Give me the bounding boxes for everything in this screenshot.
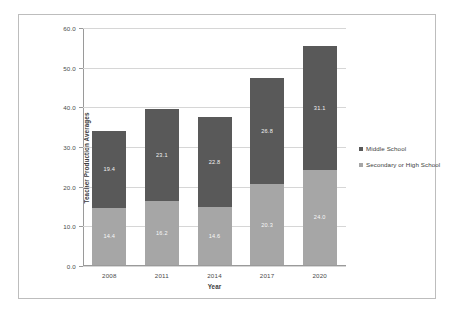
y-axis-tick-label: 0.0	[67, 263, 76, 270]
y-axis-tick	[79, 107, 83, 108]
x-axis-tick-label: 2014	[207, 272, 222, 279]
bar-value-label: 16.2	[156, 230, 168, 236]
bar-group[interactable]: 23.116.22011	[145, 109, 179, 265]
y-axis-tick-label: 20.0	[63, 183, 76, 190]
bar-group[interactable]: 26.820.32017	[250, 78, 284, 265]
bar-value-label: 26.8	[261, 128, 273, 134]
bar-segment-middle-school[interactable]: 31.1	[303, 46, 337, 169]
y-axis-tick	[79, 68, 83, 69]
bar-value-label: 24.0	[314, 214, 326, 220]
bar-value-label: 23.1	[156, 152, 168, 158]
bar-group[interactable]: 31.124.02020	[303, 46, 337, 265]
x-axis-tick-label: 2017	[260, 272, 275, 279]
legend-item[interactable]: Secondary or High School	[359, 161, 439, 168]
x-axis-tick-label: 2011	[155, 272, 169, 279]
chart-frame: Teacher Production Averages 0.010.020.03…	[18, 14, 436, 299]
x-axis-title: Year	[83, 283, 346, 290]
legend-swatch-icon	[359, 163, 363, 167]
y-axis-tick	[79, 266, 83, 267]
plot-area: 0.010.020.030.040.050.060.0 19.414.42008…	[83, 28, 346, 266]
x-axis-tick-label: 2008	[102, 272, 117, 279]
bar-segment-secondary-high-school[interactable]: 20.3	[250, 184, 284, 265]
bar-segment-middle-school[interactable]: 19.4	[92, 131, 126, 208]
x-axis-tick-label: 2020	[312, 272, 327, 279]
y-axis-tick-label: 10.0	[63, 223, 76, 230]
bar-group[interactable]: 22.814.62014	[198, 117, 232, 265]
bar-segment-middle-school[interactable]: 26.8	[250, 78, 284, 184]
bar-value-label: 20.3	[261, 222, 273, 228]
y-axis-tick-label: 30.0	[63, 144, 76, 151]
bar-segment-secondary-high-school[interactable]: 14.6	[198, 207, 232, 265]
bar-value-label: 19.4	[103, 166, 115, 172]
y-axis-tick-label: 40.0	[63, 104, 76, 111]
stacked-bar-chart: Teacher Production Averages 0.010.020.03…	[19, 15, 437, 300]
y-axis-tick-label: 60.0	[63, 25, 76, 32]
y-axis-tick	[79, 187, 83, 188]
gridline	[83, 28, 346, 29]
chart-legend: Middle SchoolSecondary or High School	[359, 145, 439, 177]
legend-item[interactable]: Middle School	[359, 145, 439, 152]
bar-group[interactable]: 19.414.42008	[92, 131, 126, 265]
bar-value-label: 14.4	[103, 233, 115, 239]
legend-swatch-icon	[359, 147, 363, 151]
y-axis-tick	[79, 28, 83, 29]
legend-item-label: Middle School	[366, 145, 406, 152]
gridline	[83, 266, 346, 267]
bar-value-label: 22.8	[209, 159, 221, 165]
bar-segment-secondary-high-school[interactable]: 14.4	[92, 208, 126, 265]
legend-item-label: Secondary or High School	[366, 161, 440, 168]
bar-segment-middle-school[interactable]: 23.1	[145, 109, 179, 201]
y-axis-tick	[79, 147, 83, 148]
bar-value-label: 31.1	[314, 105, 326, 111]
y-axis-tick-label: 50.0	[63, 64, 76, 71]
y-axis-tick	[79, 226, 83, 227]
bar-segment-secondary-high-school[interactable]: 24.0	[303, 170, 337, 265]
bar-segment-secondary-high-school[interactable]: 16.2	[145, 201, 179, 265]
bar-segment-middle-school[interactable]: 22.8	[198, 117, 232, 207]
bar-value-label: 14.6	[209, 233, 221, 239]
